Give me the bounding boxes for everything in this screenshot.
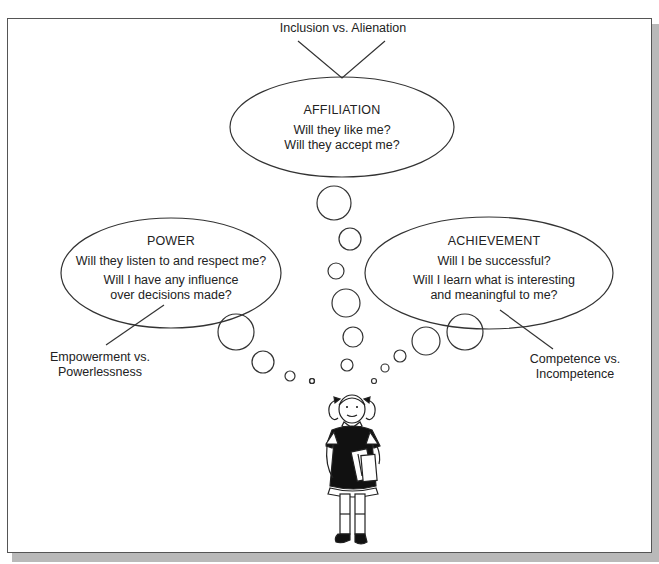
power-title: POWER (91, 234, 251, 249)
thought-bubble (332, 289, 360, 317)
power-text: POWER Will they listen to and respect me… (91, 234, 251, 303)
affiliation-question: Will they accept me? (262, 138, 422, 153)
affiliation-text: AFFILIATION Will they like me? Will they… (262, 103, 422, 153)
achievement-question: Will I be successful? (404, 254, 584, 269)
thought-bubble (285, 371, 295, 381)
power-question: Will they listen to and respect me? (71, 254, 271, 269)
thought-bubble (218, 314, 254, 350)
thought-bubble (412, 327, 440, 355)
affiliation-title: AFFILIATION (262, 103, 422, 118)
thought-bubble (310, 379, 315, 384)
achievement-connector (500, 310, 553, 349)
thought-bubble (339, 228, 361, 250)
achievement-question: and meaningful to me? (404, 288, 584, 303)
achievement-question: Will I learn what is interesting (404, 273, 584, 288)
inclusion-alienation-label: Inclusion vs. Alienation (250, 21, 436, 36)
power-question: Will I have any influence (91, 273, 251, 288)
girl-figure (326, 395, 380, 544)
thought-bubble (252, 351, 274, 373)
thought-bubble (372, 379, 377, 384)
competence-incompetence-label: Competence vs. Incompetence (515, 352, 635, 382)
power-connector (106, 305, 164, 345)
affiliation-connector (298, 41, 385, 78)
thought-bubble (328, 263, 344, 279)
empowerment-powerlessness-label: Empowerment vs. Powerlessness (40, 350, 160, 380)
thought-bubble (381, 364, 389, 372)
thought-bubble (447, 314, 483, 350)
affiliation-question: Will they like me? (262, 123, 422, 138)
thought-bubble (317, 186, 351, 220)
thought-bubble (341, 359, 353, 371)
achievement-title: ACHIEVEMENT (404, 234, 584, 249)
achievement-text: ACHIEVEMENT Will I be successful? Will I… (404, 234, 584, 303)
thought-bubble (394, 350, 406, 362)
thought-bubble (343, 327, 363, 347)
power-question: over decisions made? (91, 288, 251, 303)
